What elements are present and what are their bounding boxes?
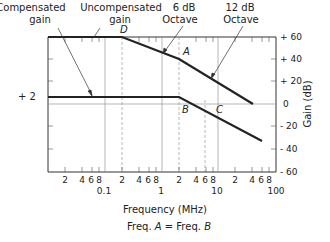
- y-tick-m20: - 20: [280, 121, 298, 131]
- compensated-gain-label-2: gain: [29, 14, 51, 25]
- x-minor-label: 2: [232, 175, 238, 185]
- y-tick-m40: - 40: [280, 144, 298, 154]
- point-d-label: D: [120, 24, 128, 35]
- six-db-octave-label-2: Octave: [162, 14, 198, 25]
- caption: Freq. A = Freq. B: [127, 221, 211, 232]
- y-axis-labels: + 60 + 40 + 20 0 - 20 - 40 - 60: [280, 32, 302, 177]
- x-minor-label: 8: [210, 175, 216, 185]
- x-minor-labels: 2 4 6 8 2 4 6 8 2 4 6 8 2 4 6 8: [62, 175, 272, 185]
- x-minor-label: 8: [266, 175, 272, 185]
- x-axis-title: Frequency (MHz): [123, 204, 207, 215]
- y-tick-0: 0: [283, 99, 289, 109]
- twelve-db-octave-label: 12 dB: [225, 2, 254, 13]
- grid-lines: [48, 37, 276, 172]
- gain-frequency-chart: Compensated gain Uncompensated gain 6 dB…: [0, 0, 330, 242]
- x-tick-0-1: 0.1: [97, 186, 111, 196]
- y-tick-40: + 40: [280, 54, 302, 64]
- y-axis-title: Gain (dB): [302, 80, 313, 127]
- x-minor-label: 6: [258, 175, 264, 185]
- compensated-gain-curve: [48, 97, 262, 141]
- y-tick-60: + 60: [280, 32, 302, 42]
- plus-two-annotation: + 2: [18, 91, 36, 102]
- uncompensated-gain-curve: [48, 37, 253, 104]
- x-tick-10: 10: [211, 186, 223, 196]
- point-c-label: C: [216, 104, 223, 115]
- point-b-label: B: [182, 104, 189, 115]
- x-minor-label: 6: [202, 175, 208, 185]
- x-minor-label: 4: [79, 175, 85, 185]
- x-minor-label: 6: [145, 175, 151, 185]
- y-tick-20: + 20: [280, 76, 302, 86]
- x-tick-100: 100: [267, 186, 284, 196]
- x-minor-label: 4: [249, 175, 255, 185]
- x-major-labels: 0.1 1 10 100: [97, 186, 285, 196]
- x-minor-label: 6: [88, 175, 94, 185]
- x-minor-label: 2: [176, 175, 182, 185]
- x-minor-label: 8: [153, 175, 159, 185]
- point-a-label: A: [182, 46, 190, 57]
- twelve-db-octave-label-2: Octave: [223, 14, 259, 25]
- x-minor-label: 2: [119, 175, 125, 185]
- x-minor-label: 4: [136, 175, 142, 185]
- x-minor-label: 2: [62, 175, 68, 185]
- x-minor-ticks: [65, 167, 269, 172]
- x-tick-1: 1: [158, 186, 164, 196]
- x-minor-label: 8: [96, 175, 102, 185]
- compensated-gain-label: Compensated: [0, 2, 66, 13]
- uncompensated-gain-label: Uncompensated: [80, 2, 162, 13]
- x-minor-label: 4: [193, 175, 199, 185]
- six-db-octave-label: 6 dB: [173, 2, 196, 13]
- y-tick-m60: - 60: [280, 167, 298, 177]
